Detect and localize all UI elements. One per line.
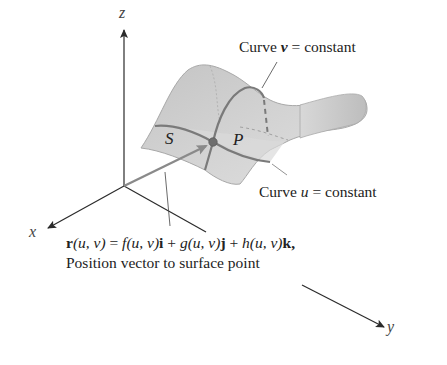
diagram-canvas — [0, 0, 447, 365]
curve-v-suffix: = constant — [288, 38, 356, 55]
surface-s — [141, 65, 367, 184]
x-axis-label: x — [29, 223, 36, 241]
point-label-p: P — [233, 130, 243, 150]
eq-args-2: (u, v) — [126, 234, 159, 251]
eq-args-3: (u, v) — [188, 234, 221, 251]
point-p — [209, 138, 217, 146]
z-axis-label: z — [119, 4, 125, 22]
eq-args-4: (u, v) — [250, 234, 283, 251]
eq-equals: = — [106, 234, 123, 251]
eq-r: r — [66, 234, 73, 251]
position-vector-equation: r(u, v) = f(u, v)i + g(u, v)j + h(u, v)k… — [66, 234, 295, 252]
position-vector-caption: Position vector to surface point — [66, 254, 260, 272]
x-axis — [48, 186, 124, 228]
surface-label-s: S — [165, 129, 174, 149]
y-axis-label: y — [387, 318, 394, 336]
eq-args-1: (u, v) — [73, 234, 106, 251]
curve-u-var: u — [301, 183, 309, 200]
curve-u-annotation: Curve u = constant — [259, 183, 377, 201]
parametric-surface-diagram: z x y S P Curve v = constant Curve u = c… — [0, 0, 447, 365]
eq-plus-2: + — [226, 234, 243, 251]
curve-u-suffix: = constant — [309, 183, 377, 200]
eq-comma: , — [291, 234, 295, 251]
eq-g: g — [180, 234, 188, 251]
curve-v-var: v — [281, 38, 288, 55]
eq-plus-1: + — [163, 234, 180, 251]
eq-k: k — [283, 234, 292, 251]
curve-u-prefix: Curve — [259, 183, 301, 200]
curve-v-prefix: Curve — [239, 38, 281, 55]
curve-v-annotation: Curve v = constant — [239, 38, 356, 56]
eq-h: h — [242, 234, 250, 251]
